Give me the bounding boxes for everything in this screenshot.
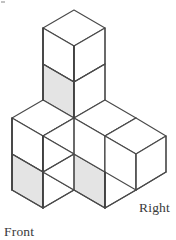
label-right: Right xyxy=(139,200,170,215)
cube-stack-drawing: Front Right xyxy=(0,0,176,240)
scan-corner-artifact xyxy=(1,1,5,3)
isometric-figure: Front Right xyxy=(0,0,176,240)
label-front: Front xyxy=(4,224,34,239)
